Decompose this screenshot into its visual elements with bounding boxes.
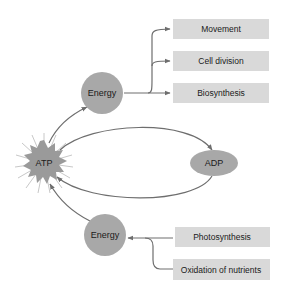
atp-label: ATP <box>36 158 53 168</box>
arrow-adp-to-atp <box>57 176 212 198</box>
atp-cycle-diagram: ATP ADP Energy Movement Cell division Bi… <box>0 0 289 290</box>
cell-division-label: Cell division <box>198 56 244 66</box>
arrow-to-cell-division <box>148 61 170 93</box>
energy-bottom-label: Energy <box>91 230 120 240</box>
arrow-from-oxidation <box>145 238 173 269</box>
adp-label: ADP <box>205 158 224 168</box>
arrow-atp-to-adp <box>60 127 212 150</box>
energy-top-label: Energy <box>88 88 117 98</box>
biosynthesis-label: Biosynthesis <box>197 88 245 98</box>
movement-label: Movement <box>201 24 241 34</box>
oxidation-label: Oxidation of nutrients <box>181 265 261 275</box>
photosynthesis-label: Photosynthesis <box>193 232 251 242</box>
arrow-energy-bottom-to-atp <box>50 184 90 221</box>
